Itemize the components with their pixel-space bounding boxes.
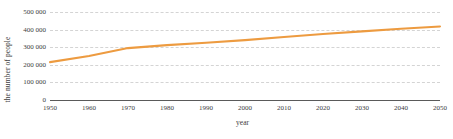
- x-tick-label: 1980: [147, 104, 187, 113]
- x-tick-label: 2030: [342, 104, 382, 113]
- x-tick-label: 1950: [30, 104, 70, 113]
- y-tick-label: 300 000: [12, 43, 46, 51]
- x-tick-label: 1990: [186, 104, 226, 113]
- y-tick-label: 400 000: [12, 26, 46, 34]
- data-series-line: [44, 0, 446, 114]
- x-axis-title-label: year: [236, 118, 249, 127]
- line-chart-figure: the number of people 0100 000200 000300 …: [0, 0, 453, 139]
- plot-area: [50, 12, 440, 100]
- y-tick-label: 500 000: [12, 8, 46, 16]
- y-tick-label: 200 000: [12, 61, 46, 69]
- series-polyline: [50, 26, 440, 62]
- x-tick-label: 2050: [420, 104, 453, 113]
- y-axis-title-label: the number of people: [3, 37, 12, 103]
- x-tick-label: 1960: [69, 104, 109, 113]
- y-tick-label: 100 000: [12, 78, 46, 86]
- y-tick-label: 0: [12, 96, 46, 104]
- x-tick-label: 2020: [303, 104, 343, 113]
- x-tick-label: 2040: [381, 104, 421, 113]
- x-axis-tick-labels: 1950196019701980199020002010202020302040…: [0, 104, 453, 116]
- x-tick-label: 2010: [264, 104, 304, 113]
- x-axis-title: year: [0, 118, 453, 127]
- x-tick-label: 2000: [225, 104, 265, 113]
- x-axis-line: [50, 100, 440, 101]
- x-tick-label: 1970: [108, 104, 148, 113]
